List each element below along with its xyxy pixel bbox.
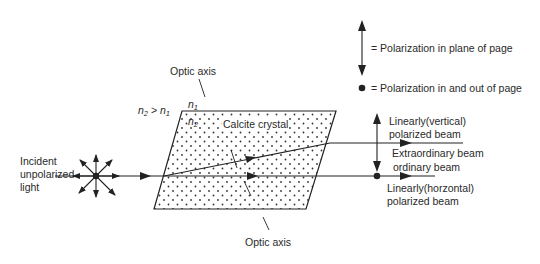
optic-axis-top-pointer (199, 79, 205, 97)
vertical-beam-label: Linearly(vertical) polarized beam (389, 115, 466, 141)
crystal-label: Calcite crystal (222, 118, 289, 131)
legend-out-label: = Polarization in and out of page (371, 82, 522, 95)
incident-label: Incident unpolarized light (20, 155, 74, 194)
ordinary-beam-label: ordinary beam (393, 161, 460, 174)
unpolarized-light-icon (73, 155, 119, 197)
optic-axis-bottom-label: Optic axis (245, 236, 291, 249)
out-of-page-polarization-dot (374, 173, 381, 180)
horizontal-beam-label: Linearly(horzontal) polarized beam (387, 182, 474, 208)
optic-axis-top-label: Optic axis (170, 65, 216, 78)
n2-inner-label: n2 (188, 115, 198, 131)
legend-plane-arrow-icon (358, 20, 366, 76)
optic-axis-bottom-pointer (263, 217, 269, 230)
legend-plane-label: = Polarization in plane of page (371, 42, 513, 55)
n1-label: n1 (188, 98, 198, 114)
index-relation-label: n2 > n1 (138, 104, 170, 120)
extraordinary-beam-label: Extraordinary beam (392, 147, 484, 160)
legend-dot-icon (359, 85, 366, 92)
